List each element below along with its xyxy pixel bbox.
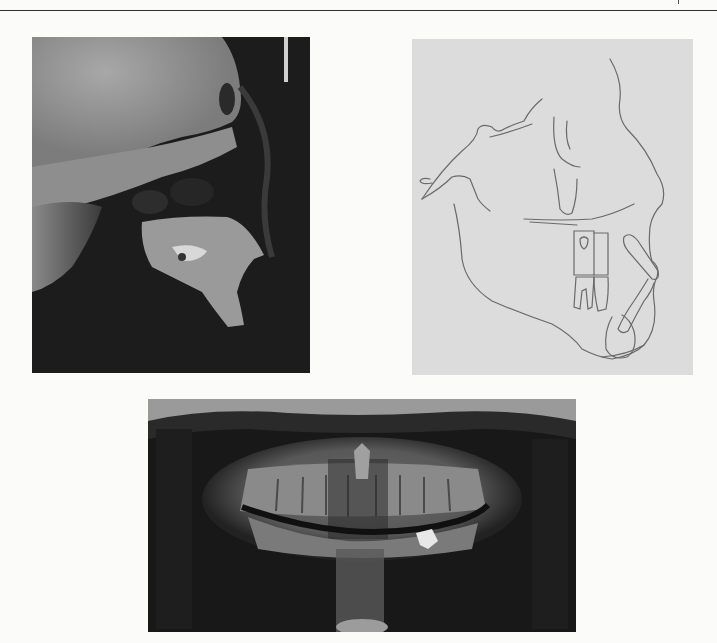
tracing-graphic [412, 39, 693, 375]
header-mark [678, 0, 679, 4]
header-rule [0, 10, 717, 11]
panoramic-radiograph-image [148, 399, 576, 632]
panoramic-graphic [148, 399, 576, 632]
lateral-cephalogram-image [32, 37, 310, 373]
cephalogram-graphic [32, 37, 310, 373]
cephalometric-tracing-image [412, 39, 693, 375]
